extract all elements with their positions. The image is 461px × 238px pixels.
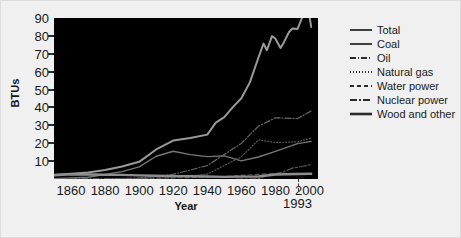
series-line-total <box>54 18 311 175</box>
legend-item-coal[interactable]: Coal <box>350 37 460 51</box>
legend-item-nuclear-power[interactable]: Nuclear power <box>350 93 460 107</box>
legend-swatch-coal-icon <box>350 38 372 50</box>
y-tick-label-10: 10 <box>21 154 49 169</box>
legend-item-wood-and-other[interactable]: Wood and other <box>350 107 460 121</box>
legend-label: Nuclear power <box>377 94 448 106</box>
y-axis-tick-labels: 102030405060708090 <box>21 18 49 179</box>
legend-item-oil[interactable]: Oil <box>350 51 460 65</box>
year-1993-marker-label: 1993 <box>272 196 324 211</box>
y-tick-label-80: 80 <box>21 28 49 43</box>
legend-label: Water power <box>377 80 439 92</box>
legend-swatch-water-power-icon <box>350 80 372 92</box>
legend-swatch-total-icon <box>350 24 372 36</box>
x-axis-tick-labels: 18601880190019201940196019802000 <box>1 183 461 201</box>
legend-label: Wood and other <box>377 108 455 120</box>
y-tick-label-40: 40 <box>21 100 49 115</box>
legend-item-total[interactable]: Total <box>350 23 460 37</box>
plot-area <box>54 18 318 179</box>
series-lines <box>54 18 318 179</box>
legend-label: Natural gas <box>377 66 433 78</box>
legend-label: Total <box>377 24 400 36</box>
chart-figure: BTUs 102030405060708090 1860188019001920… <box>0 0 461 238</box>
legend-swatch-nuclear-power-icon <box>350 94 372 106</box>
y-tick-label-30: 30 <box>21 118 49 133</box>
year-1993-marker-tick <box>298 179 299 191</box>
legend-swatch-oil-icon <box>350 52 372 64</box>
chart-legend: TotalCoalOilNatural gasWater powerNuclea… <box>350 23 460 121</box>
y-tick-label-50: 50 <box>21 82 49 97</box>
y-tick-label-90: 90 <box>21 11 49 26</box>
legend-item-water-power[interactable]: Water power <box>350 79 460 93</box>
legend-item-natural-gas[interactable]: Natural gas <box>350 65 460 79</box>
legend-label: Oil <box>377 52 390 64</box>
y-tick-label-70: 70 <box>21 46 49 61</box>
legend-swatch-wood-and-other-icon <box>350 108 372 120</box>
legend-swatch-natural-gas-icon <box>350 66 372 78</box>
y-tick-label-60: 60 <box>21 64 49 79</box>
y-axis-label: BTUs <box>9 63 21 123</box>
legend-label: Coal <box>377 38 400 50</box>
y-tick-label-20: 20 <box>21 136 49 151</box>
